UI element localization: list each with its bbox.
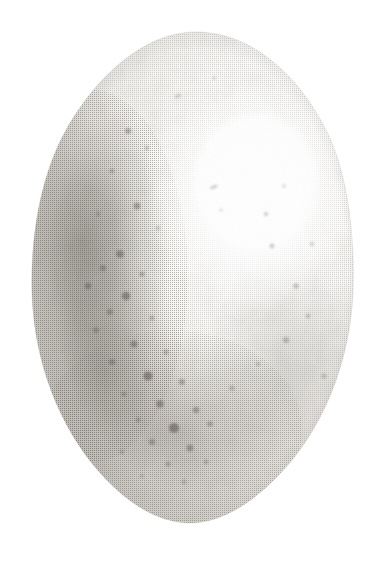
- egg-illustration: [0, 0, 381, 563]
- illustration-plate: [0, 0, 381, 563]
